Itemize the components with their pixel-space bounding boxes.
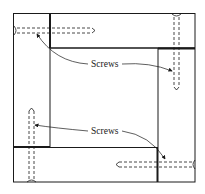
screw-bottom-right (116, 160, 195, 169)
screws-label-top: Screws (91, 60, 118, 70)
frame-drawing (0, 0, 205, 194)
leader-top-to-tl-screw (37, 34, 88, 64)
leader-lines (35, 34, 172, 159)
frame-diagram: Screws Screws (0, 0, 205, 194)
leader-bottom-to-br-screw (122, 131, 165, 159)
screw-bottom-left (27, 108, 36, 182)
screw-top-right (172, 14, 181, 90)
leader-top-to-tr-screw (122, 64, 172, 71)
screw-top-left (14, 26, 95, 35)
leader-bottom-to-bl-screw (35, 125, 88, 131)
screws-label-bottom: Screws (91, 127, 118, 137)
